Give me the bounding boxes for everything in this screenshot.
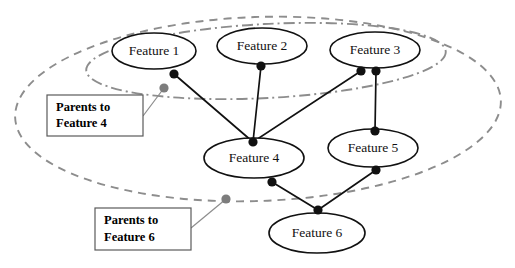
port-dot-p-f4-in [248, 137, 257, 146]
annot-parents-feature-6-line2: Feature 6 [104, 230, 155, 244]
node-feature6[interactable]: Feature 6 [269, 213, 365, 253]
annot-parents-feature-6-line1: Parents to [104, 213, 158, 227]
edge-feature5-to-feature6 [318, 170, 376, 210]
node-label-feature4: Feature 4 [229, 150, 280, 165]
edge-feature3-to-feature5 [375, 71, 376, 131]
edge-feature3-to-feature4 [253, 71, 361, 142]
edge-feature1-to-feature4 [174, 74, 253, 142]
node-label-feature6: Feature 6 [292, 225, 343, 240]
annotations-layer: Parents toFeature 4Parents toFeature 6 [47, 83, 231, 250]
port-dot-p-f5-out [371, 165, 380, 174]
node-feature1[interactable]: Feature 1 [112, 33, 196, 69]
node-label-feature5: Feature 5 [348, 140, 399, 155]
annot-parents-feature-6-leader-line [191, 199, 226, 228]
port-dot-p-f3-out-right [371, 66, 380, 75]
port-dot-p-f5-in [370, 126, 379, 135]
node-feature3[interactable]: Feature 3 [330, 32, 420, 68]
annot-parents-feature-4-leader-line [143, 88, 164, 116]
annot-parents-feature-4: Parents toFeature 4 [47, 83, 169, 136]
port-dot-p-f4-out [267, 177, 276, 186]
node-label-feature1: Feature 1 [129, 43, 180, 58]
network-diagram: Feature 1Feature 2Feature 3Feature 4Feat… [0, 0, 515, 268]
port-dot-p-f3-out-left [356, 66, 365, 75]
node-feature2[interactable]: Feature 2 [217, 28, 307, 64]
annot-parents-feature-4-marker-dot [159, 83, 168, 92]
edge-feature4-to-feature6 [272, 182, 318, 210]
edge-feature2-to-feature4 [253, 66, 261, 142]
node-label-feature3: Feature 3 [350, 42, 401, 57]
port-dot-p-f1-out [169, 69, 178, 78]
diagram-canvas: Feature 1Feature 2Feature 3Feature 4Feat… [0, 0, 515, 268]
annot-parents-feature-6: Parents toFeature 6 [95, 194, 231, 250]
port-dot-p-f2-out [256, 61, 265, 70]
annot-parents-feature-4-line1: Parents to [56, 100, 110, 114]
port-dot-p-f6-in [313, 205, 322, 214]
annot-parents-feature-4-line2: Feature 4 [56, 116, 108, 130]
annot-parents-feature-6-marker-dot [221, 194, 230, 203]
node-label-feature2: Feature 2 [237, 38, 288, 53]
